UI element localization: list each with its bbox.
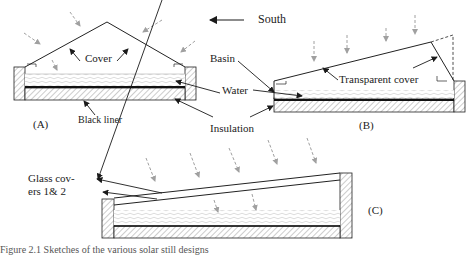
basin-label: Basin — [210, 52, 235, 64]
panel-c — [97, 0, 352, 238]
panel-b-id: (B) — [359, 119, 374, 131]
panel-a-id: (A) — [33, 118, 48, 130]
cover-label: Cover — [85, 52, 112, 64]
south-label: South — [258, 13, 286, 25]
glass-covers-label-line2: ers 1& 2 — [28, 185, 66, 197]
insulation-label: Insulation — [210, 122, 254, 134]
panel-b — [238, 15, 465, 117]
panel-c-id: (C) — [368, 204, 383, 216]
water-label: Water — [222, 84, 248, 96]
figure-caption: Figure 2.1 Sketches of the various solar… — [0, 244, 209, 255]
glass-covers-label-line1: Glass cov- — [28, 172, 75, 184]
black-liner-label: Black liner — [78, 114, 122, 126]
transparent-cover-label: Transparent cover — [339, 73, 418, 85]
